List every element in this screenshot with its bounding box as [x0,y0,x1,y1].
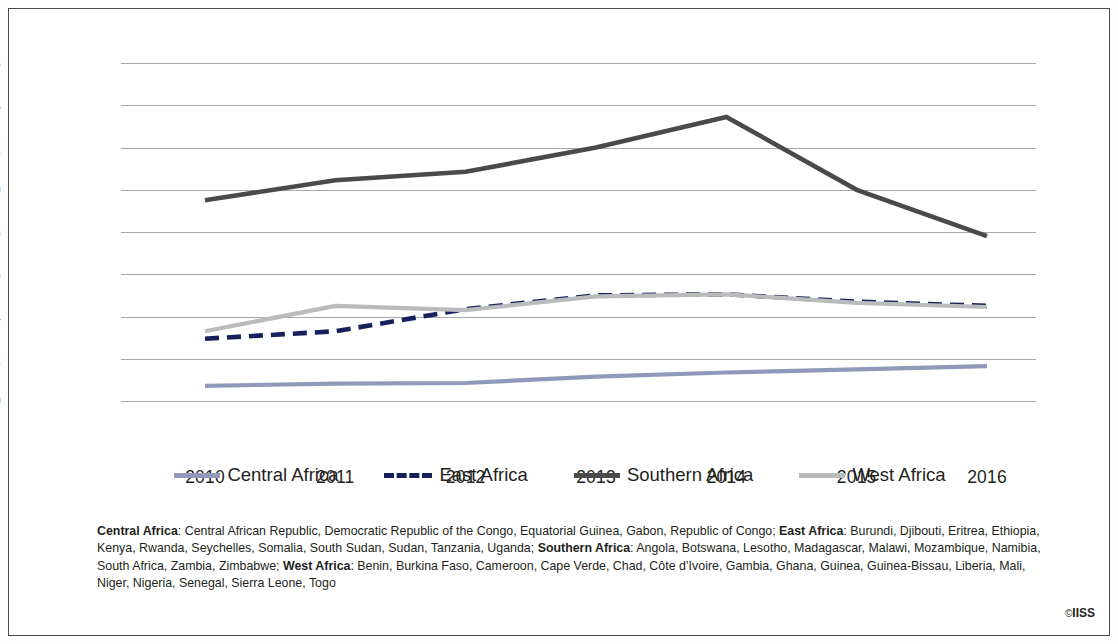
legend-swatch [384,473,432,478]
y-axis-tick-label: 6 [0,264,1,285]
legend-label: West Africa [852,464,945,486]
chart-page: 1614121086420 20102011201220132014201520… [0,0,1118,644]
footnote-group-name: Southern Africa [538,541,630,555]
y-axis-tick-label: 0 [0,391,1,412]
copyright-credit: ©IISS [1065,606,1095,620]
series-line-southern-africa [205,117,987,236]
line-chart: 1614121086420 20102011201220132014201520… [9,9,1111,429]
y-axis-tick-label: 2 [0,348,1,369]
credit-label: IISS [1072,606,1095,620]
legend-label: Southern Africa [627,464,754,486]
series-lines [121,63,1036,401]
footnote-group-name: West Africa [283,559,350,573]
series-line-east-africa [205,294,987,338]
y-axis-tick-label: 16 [0,53,1,74]
footnote-group-name: Central Africa [97,524,178,538]
y-axis-tick-label: 12 [0,137,1,158]
legend-swatch [174,473,220,478]
legend-label: Central Africa [227,464,338,486]
y-axis-tick-label: 4 [0,306,1,327]
chart-legend: Central AfricaEast AfricaSouthern Africa… [9,464,1111,486]
legend-label: East Africa [439,464,527,486]
legend-swatch [574,473,620,478]
legend-item-east-africa[interactable]: East Africa [384,464,527,486]
legend-item-west-africa[interactable]: West Africa [799,464,945,486]
footnote-group-name: East Africa [779,524,843,538]
legend-item-southern-africa[interactable]: Southern Africa [574,464,754,486]
chart-frame: 1614121086420 20102011201220132014201520… [8,8,1110,636]
y-axis-tick-label: 10 [0,179,1,200]
series-line-central-africa [205,366,987,386]
legend-swatch [799,473,845,478]
footnote-text: Central Africa: Central African Republic… [97,523,1042,593]
y-axis-tick-label: 14 [0,95,1,116]
plot-area: 1614121086420 20102011201220132014201520… [121,63,1036,401]
footnote-group-countries: : Central African Republic, Democratic R… [178,524,779,538]
gridline [121,401,1036,402]
legend-item-central-africa[interactable]: Central Africa [174,464,338,486]
y-axis-tick-label: 8 [0,222,1,243]
